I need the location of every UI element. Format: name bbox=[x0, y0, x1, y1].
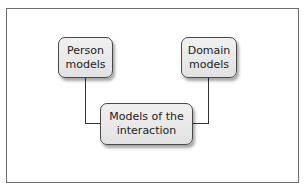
node-label-line: Person bbox=[66, 44, 106, 58]
node-label-line: Domain bbox=[188, 44, 231, 58]
connector-domain-horizontal bbox=[192, 123, 209, 124]
node-label-line: Models of the bbox=[109, 110, 183, 124]
node-label-line: interaction bbox=[109, 124, 183, 138]
diagram-frame bbox=[6, 8, 299, 183]
connector-person-vertical bbox=[85, 78, 86, 124]
connector-person-horizontal bbox=[85, 123, 101, 124]
node-label-line: models bbox=[188, 58, 231, 72]
node-label-line: models bbox=[66, 58, 106, 72]
node-domain-models: Domain models bbox=[181, 37, 237, 78]
node-models-of-interaction: Models of the interaction bbox=[100, 103, 193, 145]
connector-domain-vertical bbox=[208, 78, 209, 124]
node-person-models: Person models bbox=[58, 37, 113, 78]
